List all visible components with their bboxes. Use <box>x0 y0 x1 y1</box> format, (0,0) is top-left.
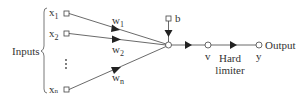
arrow-icon-sum <box>185 41 192 49</box>
weight-wn-label: wn <box>112 71 124 86</box>
hard-limiter-label-line1: Hard <box>219 52 241 64</box>
output-label: Output <box>265 39 296 51</box>
arrow-icon-bias <box>165 30 173 37</box>
input-xn-label: xn <box>49 83 59 95</box>
perceptron-diagram: Inputs x1 x2 xn w1 w2 wn b v Hard limite… <box>0 0 306 101</box>
induced-field-node-v <box>205 42 211 48</box>
arrow-icon-w2 <box>112 36 121 44</box>
induced-field-label: v <box>205 50 211 62</box>
summing-junction-node <box>166 42 172 48</box>
bias-node <box>166 16 171 21</box>
arrow-icon-hard-limiter <box>230 41 237 49</box>
output-symbol-y: y <box>256 50 262 62</box>
input-x2-label: x2 <box>49 27 59 42</box>
input-node-x2 <box>64 31 69 36</box>
inputs-label: Inputs <box>12 45 40 57</box>
input-x1-label: x1 <box>49 6 59 21</box>
ellipsis-dots <box>65 59 67 69</box>
input-node-xn <box>64 87 69 92</box>
inputs-brace <box>41 8 47 93</box>
bias-label: b <box>175 12 181 24</box>
weight-w2-label: w2 <box>112 43 124 58</box>
hard-limiter-label-line2: limiter <box>215 64 245 76</box>
output-node <box>256 42 262 48</box>
input-node-x1 <box>64 11 69 16</box>
